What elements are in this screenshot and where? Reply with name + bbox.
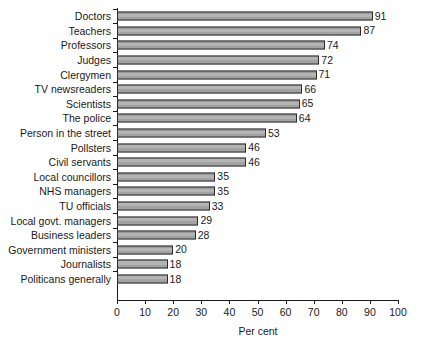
x-axis-tick — [342, 300, 343, 304]
category-label: Politicans generally — [21, 274, 111, 285]
x-axis-tick-label: 80 — [336, 306, 348, 318]
category-label: The police — [63, 113, 111, 124]
bar: 46 — [117, 158, 246, 167]
category-label: NHS managers — [39, 186, 111, 197]
x-axis-tick — [145, 300, 146, 304]
y-axis-tick — [113, 213, 117, 214]
bar-value-label: 46 — [248, 142, 260, 153]
chart-row: Local govt. managers29 — [117, 213, 398, 228]
y-axis-tick — [113, 271, 117, 272]
category-label: Professors — [61, 40, 111, 51]
bar-value-label: 46 — [248, 157, 260, 168]
x-axis-title: Per cent — [117, 325, 399, 337]
bar: 64 — [117, 114, 297, 123]
category-label: TV newsreaders — [35, 84, 111, 95]
x-axis-tick — [173, 300, 174, 304]
category-label: TU officials — [59, 201, 111, 212]
y-axis-tick — [113, 23, 117, 24]
chart-row: Politicans generally18 — [117, 272, 398, 287]
bar: 29 — [117, 216, 198, 225]
bar: 71 — [117, 70, 317, 79]
x-axis-tick-label: 70 — [308, 306, 320, 318]
category-label: Clergymen — [60, 69, 111, 80]
category-label: Teachers — [68, 25, 111, 36]
bar-value-label: 74 — [327, 40, 339, 51]
plot-area: Doctors91Teachers87Professors74Judges72C… — [117, 8, 398, 300]
x-axis-tick — [398, 300, 399, 304]
chart-row: Pollsters46 — [117, 140, 398, 155]
bar: 74 — [117, 41, 325, 50]
x-axis-tick — [201, 300, 202, 304]
category-label: Civil servants — [49, 157, 111, 168]
y-axis-tick — [113, 140, 117, 141]
bar-chart: Doctors91Teachers87Professors74Judges72C… — [0, 0, 435, 358]
x-axis-tick — [229, 300, 230, 304]
chart-row: Person in the street53 — [117, 126, 398, 141]
chart-row: Business leaders28 — [117, 228, 398, 243]
x-axis-tick — [258, 300, 259, 304]
bar-value-label: 66 — [304, 84, 316, 95]
bar: 65 — [117, 99, 300, 108]
chart-row: The police64 — [117, 111, 398, 126]
chart-row: TV newsreaders66 — [117, 82, 398, 97]
category-label: Person in the street — [20, 128, 111, 139]
bar: 33 — [117, 202, 210, 211]
x-axis-tick — [314, 300, 315, 304]
bar-value-label: 91 — [375, 11, 387, 22]
bar-value-label: 28 — [198, 230, 210, 241]
category-label: Doctors — [75, 11, 111, 22]
x-axis-tick-label: 60 — [280, 306, 292, 318]
bar: 46 — [117, 143, 246, 152]
bar-value-label: 71 — [319, 69, 331, 80]
y-axis-tick — [113, 96, 117, 97]
chart-row: Teachers87 — [117, 24, 398, 39]
category-label: Pollsters — [71, 142, 111, 153]
chart-row: Civil servants46 — [117, 155, 398, 170]
bar-value-label: 18 — [170, 259, 182, 270]
bar: 18 — [117, 275, 168, 284]
y-axis-tick — [113, 257, 117, 258]
bar-value-label: 35 — [217, 171, 229, 182]
bar-value-label: 33 — [212, 201, 224, 212]
y-axis-tick — [113, 169, 117, 170]
chart-row: Local councillors35 — [117, 170, 398, 185]
bar: 20 — [117, 245, 173, 254]
category-label: Government ministers — [8, 244, 111, 255]
x-axis-tick-label: 90 — [364, 306, 376, 318]
bar: 53 — [117, 129, 266, 138]
x-axis-tick-label: 30 — [195, 306, 207, 318]
x-axis-tick — [286, 300, 287, 304]
category-label: Business leaders — [31, 230, 111, 241]
bar: 87 — [117, 26, 361, 35]
bar: 66 — [117, 85, 302, 94]
bar: 91 — [117, 12, 373, 21]
category-label: Local councillors — [33, 171, 111, 182]
chart-row: Scientists65 — [117, 97, 398, 112]
chart-row: Professors74 — [117, 38, 398, 53]
x-axis-tick-label: 0 — [114, 306, 120, 318]
chart-row: NHS managers35 — [117, 184, 398, 199]
x-axis-tick — [117, 300, 118, 304]
x-axis-tick — [370, 300, 371, 304]
y-axis-tick — [113, 52, 117, 53]
x-axis-tick-label: 40 — [224, 306, 236, 318]
y-axis-tick — [113, 242, 117, 243]
y-axis-tick — [113, 9, 117, 10]
y-axis-tick — [113, 67, 117, 68]
category-label: Scientists — [66, 98, 111, 109]
bar-value-label: 18 — [170, 274, 182, 285]
bar: 35 — [117, 187, 215, 196]
chart-row: Journalists18 — [117, 257, 398, 272]
bar-value-label: 53 — [268, 128, 280, 139]
chart-row: TU officials33 — [117, 199, 398, 214]
x-axis-tick-label: 50 — [252, 306, 264, 318]
bar-value-label: 65 — [302, 98, 314, 109]
y-axis-tick — [113, 111, 117, 112]
chart-row: Doctors91 — [117, 9, 398, 24]
y-axis-tick — [113, 228, 117, 229]
y-axis-tick — [113, 125, 117, 126]
x-axis-tick-label: 10 — [139, 306, 151, 318]
y-axis-tick — [113, 82, 117, 83]
bar: 35 — [117, 172, 215, 181]
chart-row: Judges72 — [117, 53, 398, 68]
